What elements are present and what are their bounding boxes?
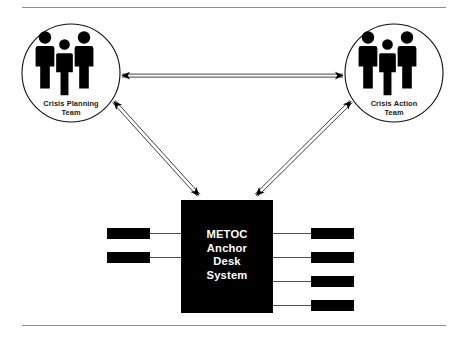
crisis-action-team-label-line2: Team bbox=[345, 108, 443, 117]
metoc-anchor-desk-system-label: METOC Anchor Desk System bbox=[181, 228, 273, 282]
hub-label-line1: METOC bbox=[181, 228, 273, 242]
hub-label-line2: Anchor bbox=[181, 242, 273, 256]
connector-cpt-to-hub[interactable] bbox=[113, 100, 201, 196]
diagram-canvas: Crisis Planning Team Crisis Action Team … bbox=[0, 0, 462, 343]
connector-cat-to-hub[interactable] bbox=[255, 100, 353, 196]
three-people-icon bbox=[36, 31, 94, 96]
right-block-1[interactable] bbox=[311, 228, 354, 239]
hub-label-line3: Desk bbox=[181, 255, 273, 269]
hub-label-line4: System bbox=[181, 269, 273, 283]
right-block-3[interactable] bbox=[311, 276, 354, 287]
crisis-planning-team-label-line1: Crisis Planning bbox=[22, 99, 120, 108]
crisis-action-team-label: Crisis Action Team bbox=[345, 99, 443, 118]
crisis-action-team-label-line1: Crisis Action bbox=[345, 99, 443, 108]
left-block-2[interactable] bbox=[107, 252, 150, 263]
crisis-planning-team-label-line2: Team bbox=[22, 108, 120, 117]
right-block-4[interactable] bbox=[311, 300, 354, 311]
left-block-1[interactable] bbox=[107, 228, 150, 239]
diagram-graphics-layer bbox=[0, 0, 462, 343]
connector-cpt-to-cat[interactable] bbox=[122, 74, 343, 77]
crisis-planning-team-label: Crisis Planning Team bbox=[22, 99, 120, 118]
three-people-icon bbox=[359, 31, 417, 96]
right-block-2[interactable] bbox=[311, 252, 354, 263]
